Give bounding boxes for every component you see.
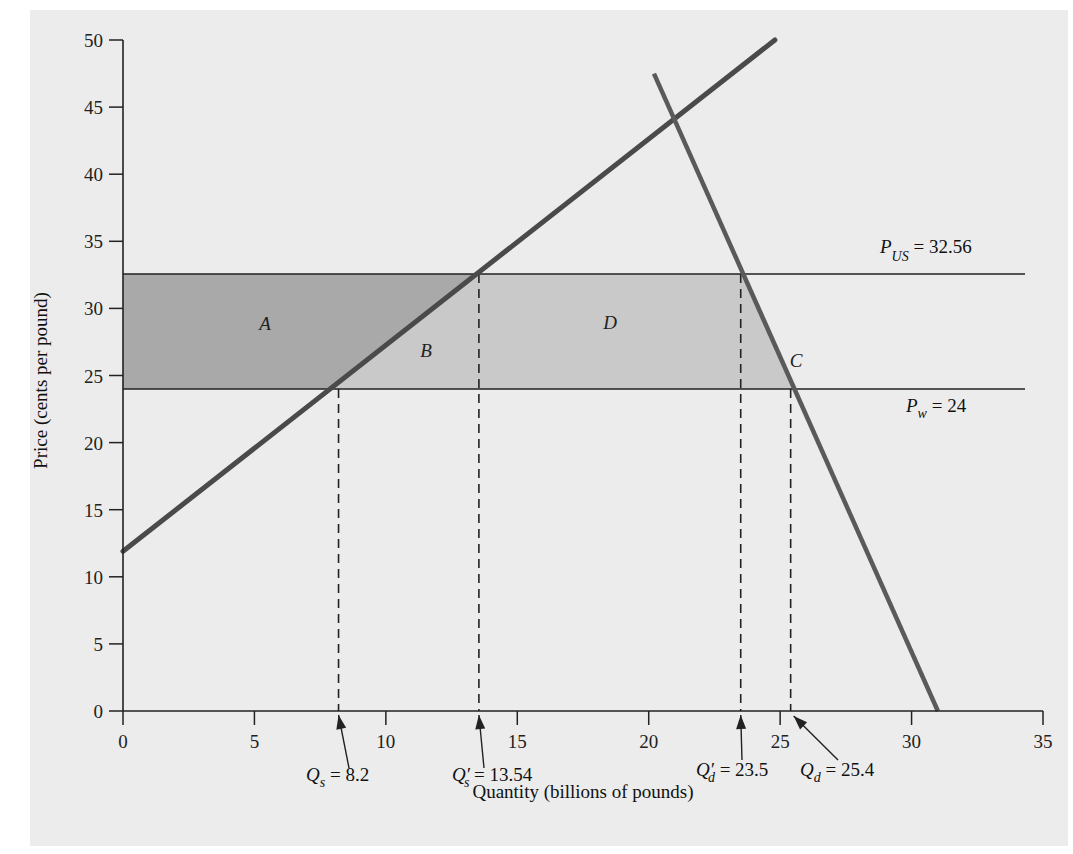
x-tick-label: 20 <box>639 731 658 752</box>
y-tick-label: 45 <box>84 97 103 118</box>
label-q-d-prime: Q′d = 23.5 <box>696 759 768 785</box>
arrow-head-icon <box>475 715 485 729</box>
x-tick-label: 35 <box>1034 731 1053 752</box>
region-label-c: C <box>790 350 803 371</box>
y-tick-label: 0 <box>94 701 104 722</box>
y-tick-label: 10 <box>84 567 103 588</box>
sugar-quota-chart: 0510152025303540455005101520253035Price … <box>0 0 1073 854</box>
shaded-regions <box>123 274 794 389</box>
region-label-b: B <box>420 340 432 361</box>
y-tick-label: 15 <box>84 500 103 521</box>
y-tick-label: 50 <box>84 30 103 51</box>
label-q-s: Qs = 8.2 <box>306 764 369 790</box>
demand-curve <box>654 74 938 711</box>
x-tick-label: 30 <box>902 731 921 752</box>
label-q-d: Qd = 25.4 <box>800 759 875 785</box>
x-tick-label: 5 <box>250 731 260 752</box>
x-tick-label: 25 <box>771 731 790 752</box>
y-tick-label: 40 <box>84 164 103 185</box>
y-tick-label: 30 <box>84 298 103 319</box>
label-pw: Pw = 24 <box>905 395 967 421</box>
y-tick-label: 25 <box>84 366 103 387</box>
y-axis-title: Price (cents per pound) <box>30 292 52 469</box>
label-pus: PUS = 32.56 <box>879 236 972 264</box>
x-tick-label: 10 <box>376 731 395 752</box>
y-tick-label: 35 <box>84 231 103 252</box>
axes: 0510152025303540455005101520253035Price … <box>30 30 1053 803</box>
y-tick-label: 20 <box>84 433 103 454</box>
x-tick-label: 15 <box>508 731 527 752</box>
arrow-head-icon <box>336 715 346 730</box>
region-label-a: A <box>257 313 271 334</box>
y-tick-label: 5 <box>94 634 104 655</box>
arrow-head-icon <box>736 715 746 729</box>
region-label-d: D <box>602 312 617 333</box>
x-tick-label: 0 <box>118 731 128 752</box>
